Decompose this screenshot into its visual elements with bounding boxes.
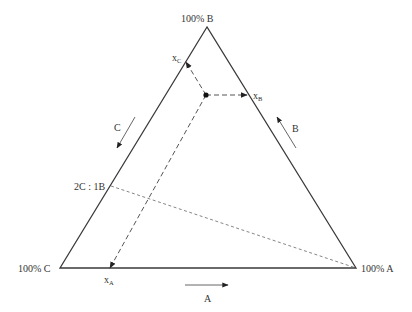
direction-label-a: A bbox=[204, 293, 212, 304]
triangle-outline bbox=[60, 27, 356, 268]
projection-label-xc: xC bbox=[172, 52, 181, 64]
vertex-label-b: 100% B bbox=[181, 13, 214, 24]
projection-label-xa: xA bbox=[104, 274, 114, 286]
projection-arrow-xa bbox=[110, 95, 206, 268]
composition-point bbox=[203, 92, 208, 97]
vertex-label-a: 100% A bbox=[361, 263, 394, 274]
ternary-diagram: 100% B 100% C 100% A 2C : 1B xA xB xC A … bbox=[0, 0, 412, 312]
direction-label-b: B bbox=[292, 123, 299, 134]
projection-arrow-xc bbox=[186, 62, 206, 95]
direction-label-c: C bbox=[114, 122, 121, 133]
ratio-label: 2C : 1B bbox=[74, 181, 105, 192]
vertex-label-c: 100% C bbox=[18, 263, 51, 274]
projection-label-xb: xB bbox=[253, 90, 263, 102]
ratio-line-2c-1b bbox=[111, 186, 356, 268]
